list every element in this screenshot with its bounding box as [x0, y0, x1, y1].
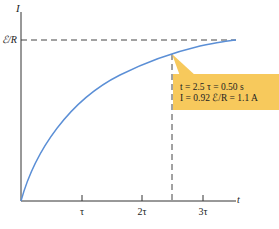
- tick-label-3tau: 3τ: [198, 206, 207, 217]
- callout-text: t = 2.5 τ = 0.50 s I = 0.92 ℰ/R = 1.1 A: [180, 82, 258, 104]
- y-axis-label: I: [16, 2, 20, 14]
- callout-line-2: I = 0.92 ℰ/R = 1.1 A: [180, 93, 258, 104]
- callout-line-1: t = 2.5 τ = 0.50 s: [180, 82, 258, 93]
- tick-label-2tau: 2τ: [137, 206, 146, 217]
- current-curve: [21, 40, 236, 201]
- callout-pointer: [172, 54, 196, 76]
- x-axis-label: t: [237, 194, 240, 205]
- tick-label-tau: τ: [80, 206, 84, 217]
- asymptote-label: ℰ/R: [2, 34, 17, 45]
